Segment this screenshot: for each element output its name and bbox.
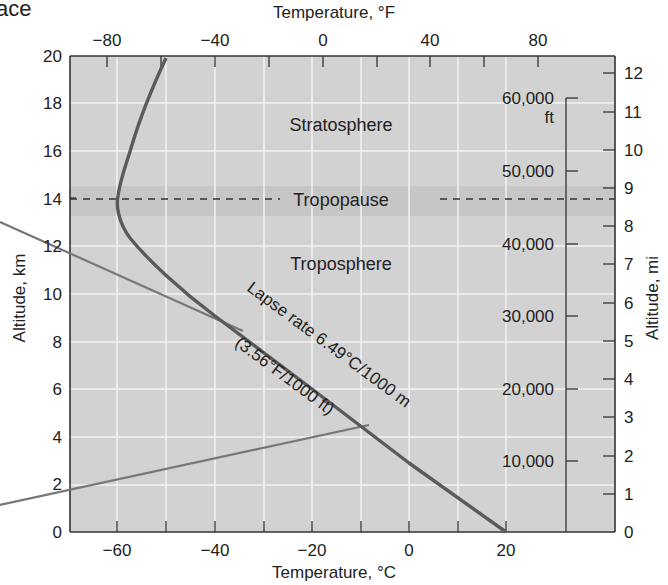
mile-tick-labels: 0 1 2 3 4 5 6 7 8 9 10 11 12: [624, 64, 643, 542]
svg-text:40,000: 40,000: [502, 235, 554, 254]
bottom-axis-title: Temperature, °C: [272, 563, 396, 582]
stratosphere-label: Stratosphere: [289, 115, 392, 135]
fahrenheit-tick-labels: −80 −40 0 40 80: [93, 31, 548, 50]
svg-text:50,000: 50,000: [502, 162, 554, 181]
svg-text:3: 3: [624, 408, 633, 427]
top-axis-title: Temperature, °F: [273, 3, 395, 22]
celsius-tick-labels: −60 −40 −20 0 20: [103, 541, 516, 560]
svg-text:ft: ft: [545, 108, 555, 127]
svg-text:1: 1: [624, 485, 633, 504]
svg-text:−60: −60: [103, 541, 132, 560]
svg-text:20,000: 20,000: [502, 380, 554, 399]
svg-text:12: 12: [624, 64, 643, 83]
svg-text:16: 16: [43, 142, 62, 161]
svg-text:60,000: 60,000: [502, 89, 554, 108]
svg-text:0: 0: [318, 31, 327, 50]
svg-text:4: 4: [624, 370, 633, 389]
svg-text:0: 0: [53, 523, 62, 542]
svg-text:10,000: 10,000: [502, 452, 554, 471]
svg-text:6: 6: [53, 380, 62, 399]
svg-text:−40: −40: [201, 541, 230, 560]
svg-text:9: 9: [624, 179, 633, 198]
svg-text:40: 40: [421, 31, 440, 50]
svg-text:20: 20: [43, 47, 62, 66]
svg-text:4: 4: [53, 428, 62, 447]
svg-text:−40: −40: [201, 31, 230, 50]
svg-text:30,000: 30,000: [502, 307, 554, 326]
svg-text:2: 2: [624, 447, 633, 466]
svg-text:8: 8: [624, 217, 633, 236]
troposphere-label: Troposphere: [290, 254, 391, 274]
svg-text:12: 12: [43, 237, 62, 256]
svg-text:14: 14: [43, 190, 62, 209]
corner-text-fragment: ace: [0, 0, 31, 21]
svg-text:11: 11: [624, 103, 642, 122]
svg-text:0: 0: [404, 541, 413, 560]
svg-text:6: 6: [624, 294, 633, 313]
right-axis-title: Altitude, mi: [643, 256, 662, 340]
svg-text:80: 80: [529, 31, 548, 50]
left-axis-title: Altitude, km: [10, 254, 29, 343]
svg-text:5: 5: [624, 332, 633, 351]
svg-text:8: 8: [53, 333, 62, 352]
svg-text:20: 20: [497, 541, 516, 560]
atmosphere-temperature-chart: ace: [0, 0, 668, 585]
svg-text:−20: −20: [298, 541, 327, 560]
svg-text:10: 10: [43, 285, 62, 304]
svg-text:7: 7: [624, 255, 633, 274]
svg-text:−80: −80: [93, 31, 122, 50]
svg-text:10: 10: [624, 141, 643, 160]
svg-text:18: 18: [43, 94, 62, 113]
km-tick-labels: 0 2 4 6 8 10 12 14 16 18 20: [43, 47, 62, 542]
svg-text:2: 2: [53, 475, 62, 494]
tropopause-label: Tropopause: [293, 190, 388, 210]
svg-text:0: 0: [624, 523, 633, 542]
